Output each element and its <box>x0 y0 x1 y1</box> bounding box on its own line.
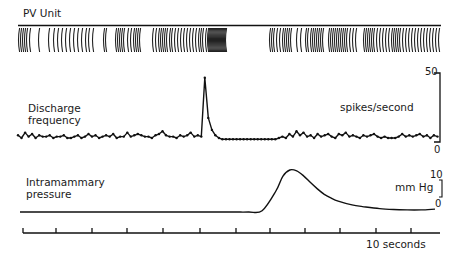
discharge-point <box>73 135 75 137</box>
discharge-point <box>204 77 206 79</box>
discharge-point <box>348 135 350 137</box>
spike <box>140 28 141 52</box>
spike <box>128 28 129 52</box>
spike <box>313 28 314 52</box>
spike <box>163 28 164 52</box>
discharge-point <box>17 134 19 136</box>
spike <box>62 28 63 52</box>
spike <box>58 28 59 52</box>
discharge-point <box>24 131 26 133</box>
spike <box>335 28 336 52</box>
discharge-point <box>207 117 209 119</box>
spike <box>394 28 395 52</box>
spike <box>134 28 135 52</box>
spike <box>409 28 410 52</box>
discharge-point <box>352 134 354 136</box>
spike <box>287 28 288 52</box>
spike <box>418 28 419 52</box>
discharge-point <box>190 131 192 133</box>
spike <box>93 28 94 52</box>
spike <box>323 28 324 52</box>
spike <box>89 28 90 52</box>
spike <box>315 28 316 52</box>
spike <box>167 28 168 52</box>
discharge-point <box>218 137 220 139</box>
discharge-point <box>380 137 382 139</box>
spike <box>380 28 381 52</box>
discharge-point <box>264 138 266 140</box>
discharge-point <box>405 135 407 137</box>
discharge-units: spikes/second <box>340 101 414 113</box>
discharge-scale-max: 50 <box>425 66 438 77</box>
spike <box>277 28 278 52</box>
discharge-point <box>341 134 343 136</box>
spike <box>159 28 160 52</box>
discharge-label-line1: Discharge <box>28 102 81 114</box>
spike <box>136 28 137 52</box>
discharge-point <box>147 135 149 137</box>
discharge-point <box>257 138 259 140</box>
spike <box>39 28 40 52</box>
spike <box>190 28 191 52</box>
discharge-point <box>292 135 294 137</box>
discharge-point <box>274 138 276 140</box>
spike <box>392 28 393 52</box>
discharge-point <box>422 135 424 137</box>
spike <box>337 28 338 52</box>
spike <box>226 28 227 52</box>
discharge-point <box>31 133 33 135</box>
spike <box>412 28 413 52</box>
pressure-label-line2: pressure <box>26 188 71 200</box>
discharge-point <box>309 134 311 136</box>
spike <box>86 28 87 52</box>
discharge-point <box>271 138 273 140</box>
spike <box>70 28 71 52</box>
discharge-point <box>412 135 414 137</box>
discharge-point <box>27 135 29 137</box>
discharge-point <box>91 135 93 137</box>
discharge-point <box>253 138 255 140</box>
discharge-point <box>246 138 248 140</box>
discharge-point <box>221 138 223 140</box>
spike <box>374 28 375 52</box>
discharge-point <box>376 135 378 137</box>
spike <box>21 28 22 52</box>
spike <box>356 28 357 52</box>
discharge-point <box>137 133 139 135</box>
spike <box>118 28 119 52</box>
spike <box>172 28 173 52</box>
discharge-point <box>331 135 333 137</box>
pressure-scale-bar <box>439 180 442 197</box>
spike <box>389 28 390 52</box>
discharge-point <box>433 134 435 136</box>
spike <box>386 28 387 52</box>
discharge-point <box>158 133 160 135</box>
discharge-point <box>98 137 100 139</box>
spike <box>421 28 422 52</box>
discharge-point <box>119 135 121 137</box>
spike <box>415 28 416 52</box>
discharge-point <box>327 133 329 135</box>
spike <box>301 28 302 52</box>
discharge-point <box>133 134 135 136</box>
discharge-point <box>105 134 107 136</box>
discharge-point <box>175 137 177 139</box>
discharge-point <box>38 134 40 136</box>
pressure-units: mm Hg <box>395 181 433 193</box>
discharge-point <box>373 133 375 135</box>
spike <box>120 28 121 52</box>
spike <box>23 28 24 52</box>
spike <box>347 28 348 52</box>
pressure-scale-max: 10 <box>430 169 443 180</box>
discharge-point <box>235 138 237 140</box>
discharge-point <box>366 135 368 137</box>
discharge-point <box>334 137 336 139</box>
discharge-point <box>302 131 304 133</box>
discharge-point <box>123 135 125 137</box>
discharge-point <box>126 131 128 133</box>
discharge-point <box>429 137 431 139</box>
discharge-point <box>260 138 262 140</box>
spike <box>306 28 307 52</box>
spike <box>138 28 139 52</box>
discharge-point <box>362 134 364 136</box>
